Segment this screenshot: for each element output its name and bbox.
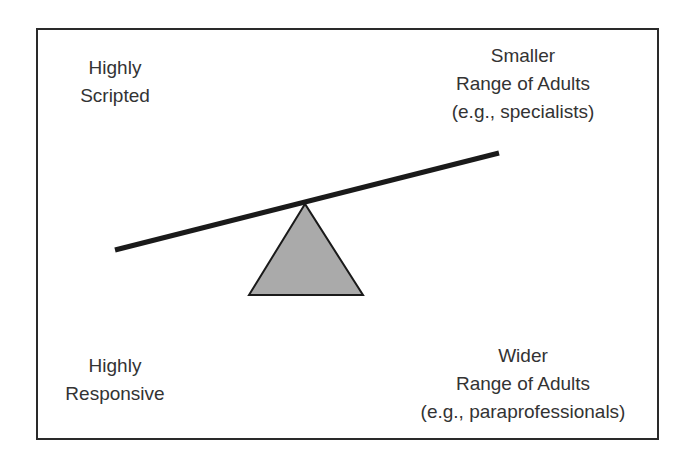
- label-line: Smaller: [452, 42, 595, 70]
- label-wider-range-of-adults: Wider Range of Adults (e.g., paraprofess…: [421, 342, 626, 426]
- label-line: Scripted: [80, 82, 150, 110]
- label-line: (e.g., paraprofessionals): [421, 398, 626, 426]
- label-highly-scripted: Highly Scripted: [80, 54, 150, 110]
- label-line: (e.g., specialists): [452, 98, 595, 126]
- label-line: Highly: [65, 352, 164, 380]
- label-line: Range of Adults: [452, 70, 595, 98]
- label-smaller-range-of-adults: Smaller Range of Adults (e.g., specialis…: [452, 42, 595, 126]
- label-highly-responsive: Highly Responsive: [65, 352, 164, 408]
- label-line: Responsive: [65, 380, 164, 408]
- label-line: Range of Adults: [421, 370, 626, 398]
- fulcrum-triangle-icon: [249, 204, 363, 295]
- label-line: Wider: [421, 342, 626, 370]
- label-line: Highly: [80, 54, 150, 82]
